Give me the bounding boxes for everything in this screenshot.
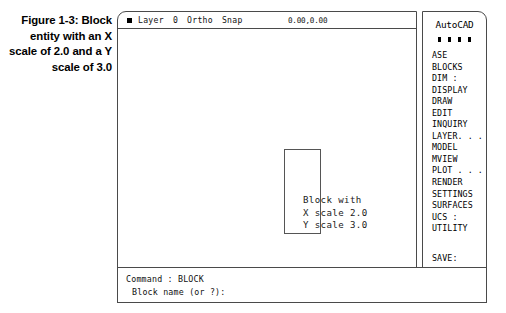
autocad-window: Layer 0 Ortho Snap 0.00,0.00 Block with … [117, 11, 487, 303]
status-ortho-toggle[interactable]: Ortho [187, 15, 213, 25]
menu-separator-stars [423, 37, 486, 42]
command-line-1: Command : BLOCK [126, 273, 486, 286]
status-snap-toggle[interactable]: Snap [222, 15, 243, 25]
annotation-line-1: Block with [303, 195, 362, 205]
menu-item-dim[interactable]: DIM : [423, 73, 486, 85]
menu-item-plot[interactable]: PLOT . . . [423, 165, 486, 177]
menu-spacer [423, 235, 486, 253]
filled-square-icon [127, 18, 132, 23]
screen-menu-panel: AutoCAD ASE BLOCKS DIM : DISPLAY DRAW ED… [422, 11, 487, 268]
menu-item-inquiry[interactable]: INQUIRY [423, 119, 486, 131]
menu-item-ucs[interactable]: UCS : [423, 212, 486, 224]
command-line-area[interactable]: Command : BLOCK Block name (or ?): [117, 267, 487, 303]
menu-item-draw[interactable]: DRAW [423, 96, 486, 108]
star-mark-icon [468, 37, 471, 42]
menu-item-layer[interactable]: LAYER. . . [423, 131, 486, 143]
menu-item-edit[interactable]: EDIT [423, 108, 486, 120]
menu-item-save[interactable]: SAVE: [423, 253, 486, 265]
annotation-line-2: X scale 2.0 [303, 208, 368, 218]
status-layer-label[interactable]: Layer [138, 15, 164, 25]
screen-menu-title: AutoCAD [423, 19, 486, 30]
star-mark-icon [438, 37, 441, 42]
star-mark-icon [458, 37, 461, 42]
menu-item-surfaces[interactable]: SURFACES [423, 200, 486, 212]
drawing-canvas[interactable]: Block with X scale 2.0 Y scale 3.0 [118, 29, 416, 267]
menu-item-render[interactable]: RENDER [423, 177, 486, 189]
command-line-2: Block name (or ?): [126, 286, 486, 299]
status-coordinates: 0.00,0.00 [288, 16, 327, 25]
status-layer-value[interactable]: 0 [173, 15, 178, 25]
figure-caption: Figure 1-3: Block entity with an X scale… [0, 13, 112, 75]
star-mark-icon [448, 37, 451, 42]
drawing-panel: Layer 0 Ortho Snap 0.00,0.00 Block with … [117, 11, 417, 268]
menu-item-blocks[interactable]: BLOCKS [423, 62, 486, 74]
annotation-line-3: Y scale 3.0 [303, 220, 368, 230]
menu-item-mview[interactable]: MVIEW [423, 154, 486, 166]
menu-item-settings[interactable]: SETTINGS [423, 189, 486, 201]
block-annotation-text: Block with X scale 2.0 Y scale 3.0 [303, 194, 368, 232]
menu-item-ase[interactable]: ASE [423, 50, 486, 62]
menu-item-utility[interactable]: UTILITY [423, 223, 486, 235]
status-bar: Layer 0 Ortho Snap 0.00,0.00 [118, 12, 416, 29]
menu-item-model[interactable]: MODEL [423, 142, 486, 154]
menu-item-display[interactable]: DISPLAY [423, 85, 486, 97]
